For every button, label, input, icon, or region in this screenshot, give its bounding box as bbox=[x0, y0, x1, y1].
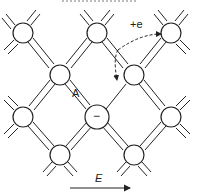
acceptor-label: A bbox=[72, 87, 79, 99]
atom bbox=[161, 107, 181, 127]
atom bbox=[124, 65, 144, 85]
field-label: E bbox=[95, 172, 102, 184]
atom bbox=[13, 107, 33, 127]
crystal-lattice-diagram bbox=[0, 0, 197, 196]
atom bbox=[124, 145, 144, 165]
atom bbox=[13, 23, 33, 43]
atom bbox=[50, 145, 70, 165]
atom bbox=[50, 65, 70, 85]
atom bbox=[87, 23, 107, 43]
acceptor-charge: − bbox=[93, 109, 100, 123]
electron-label: +e bbox=[130, 18, 143, 30]
electron-capture-arrow bbox=[115, 50, 118, 80]
atom bbox=[161, 23, 181, 43]
electron-hop-arrow bbox=[118, 34, 161, 50]
